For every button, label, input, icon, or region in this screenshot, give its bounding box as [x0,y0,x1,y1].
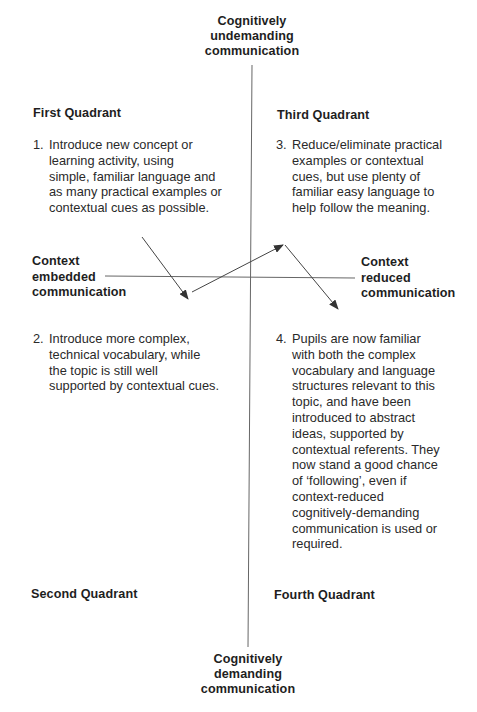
quadrant-title-third: Third Quadrant [277,108,369,123]
arrow-step-3-to-4 [285,245,338,309]
left-axis-label: Context embedded communication [32,254,126,301]
step-text-line: simple, familiar language and [49,169,243,185]
step-text-line: contextual referents. They [292,442,476,458]
step-text-line: context-reduced [292,489,476,505]
step-text-line: help follow the meaning. [292,200,476,216]
step-text-line: Pupils are now familiar [292,331,476,347]
bottom-axis-label-line: communication [186,682,310,697]
step-text-line: the topic is still well [49,363,243,379]
bottom-axis-label-line: Cognitively [186,652,310,667]
step-4: 4. Pupils are now familiar with both the… [276,331,476,552]
top-axis-label-line: undemanding [190,29,314,44]
step-number: 1. [33,137,44,153]
arrow-step-1-to-2 [142,237,188,299]
step-text-line: ideas, supported by [292,426,476,442]
step-text-line: learning activity, using [49,153,243,169]
step-text-line: structures relevant to this [292,378,476,394]
quadrant-title-fourth: Fourth Quadrant [274,588,375,603]
left-axis-label-line: embedded [32,270,126,286]
step-text-line: Reduce/eliminate practical [292,137,476,153]
left-axis-label-line: communication [32,285,126,301]
top-axis-label-line: Cognitively [190,14,314,29]
arrow-step-2-to-3 [192,245,283,292]
quadrant-title-first: First Quadrant [33,106,121,121]
right-axis-label-line: Context [361,255,455,271]
step-text-line: contextual cues as possible. [49,200,243,216]
step-text-line: introduced to abstract [292,410,476,426]
step-number: 2. [33,331,44,347]
bottom-axis-label: Cognitively demanding communication [186,652,310,697]
step-text-line: cognitively-demanding [292,505,476,521]
right-axis-label-line: communication [361,286,455,302]
right-axis-label-line: reduced [361,271,455,287]
step-text-line: communication is used or [292,521,476,537]
step-number: 3. [276,137,287,153]
bottom-axis-label-line: demanding [186,667,310,682]
step-text-line: familiar easy language to [292,184,476,200]
left-axis-label-line: Context [32,254,126,270]
step-text-line: vocabulary and language [292,363,476,379]
step-3: 3. Reduce/eliminate practical examples o… [276,137,476,216]
horizontal-axis [105,276,355,278]
step-number: 4. [276,331,287,347]
step-text-line: as many practical examples or [49,184,243,200]
step-2: 2. Introduce more complex, technical voc… [33,331,243,394]
top-axis-label: Cognitively undemanding communication [190,14,314,59]
step-text-line: cues, but use plenty of [292,169,476,185]
vertical-axis [248,65,252,647]
step-text-line: required. [292,536,476,552]
quadrant-title-second: Second Quadrant [31,587,137,602]
step-text-line: now stand a good chance [292,457,476,473]
step-text-line: of ‘following’, even if [292,473,476,489]
right-axis-label: Context reduced communication [361,255,455,302]
step-text-line: technical vocabulary, while [49,347,243,363]
step-text-line: examples or contextual [292,153,476,169]
step-text-line: with both the complex [292,347,476,363]
step-text-line: Introduce more complex, [49,331,243,347]
step-text-line: topic, and have been [292,394,476,410]
step-text-line: Introduce new concept or [49,137,243,153]
step-text-line: supported by contextual cues. [49,378,243,394]
step-1: 1. Introduce new concept or learning act… [33,137,243,216]
top-axis-label-line: communication [190,44,314,59]
